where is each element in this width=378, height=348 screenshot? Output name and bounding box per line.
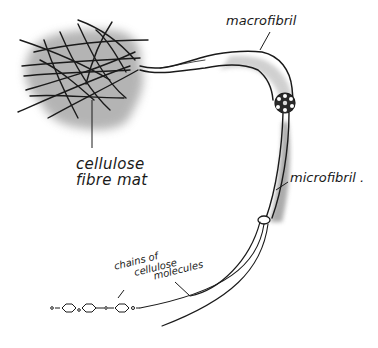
chains-leader-line <box>175 282 190 296</box>
molecule-leader-line <box>118 290 124 298</box>
cellulose-molecule-chain <box>51 304 140 312</box>
fibre-mat-label: cellulose fibre mat <box>76 157 148 189</box>
macrofibril-leader-line <box>260 32 270 50</box>
microfibril-shading <box>270 122 290 222</box>
macrofibril-label: macrofibril <box>226 14 296 28</box>
fibre-mat-label-line2: fibre mat <box>76 171 148 189</box>
macrofibril-cross-section <box>275 93 295 113</box>
microfibril-label: microfibril . <box>290 171 364 185</box>
